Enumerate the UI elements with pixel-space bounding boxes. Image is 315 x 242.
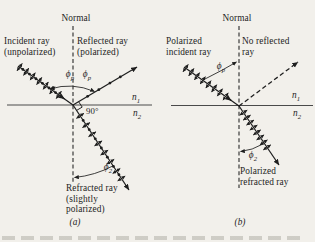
angle-label-phi-2-a: ϕ2 (104, 162, 112, 176)
angle-label-phi-p-reflected-a: ϕp (83, 69, 91, 83)
angle-label-phi-p-incident-a: ϕp (66, 69, 74, 83)
reflected-ray-label-a: Reflected ray (polarized) (77, 36, 128, 57)
right-angle-label-a: 90° (86, 106, 99, 117)
panel-caption-a: (a) (69, 217, 80, 228)
no-reflected-ray-label-b: No reflected ray (242, 36, 289, 57)
refracted-ray-a (73, 105, 129, 190)
polarized-incident-ray-label-b: Polarized incident ray (166, 36, 211, 57)
normal-label-a: Normal (62, 13, 91, 24)
angle-label-phi-2-b: ϕ2 (249, 150, 257, 164)
angle-label-phi-p-b: ϕp (217, 61, 225, 75)
refracted-ray-label-a: Refracted ray (slightly polarized) (66, 183, 118, 215)
panel-caption-b: (b) (234, 217, 245, 228)
no-reflected-ray-b (239, 62, 298, 106)
normal-label-b: Normal (223, 13, 252, 24)
incident-ray-label-a: Incident ray (unpolarized) (4, 36, 55, 57)
n1-label-a: n1 (132, 92, 140, 106)
n2-label-b: n2 (293, 108, 301, 122)
incident-ray-b (183, 64, 239, 106)
refracted-ray-b (239, 106, 279, 165)
n1-label-b: n1 (292, 90, 300, 104)
polarized-refracted-ray-label-b: Polarized refracted ray (240, 166, 289, 187)
n2-label-a: n2 (133, 108, 141, 122)
brewster-angle-figure: Normal Incident ray (unpolarized) Reflec… (0, 0, 315, 242)
incident-ray-a (17, 63, 73, 105)
cropped-caption-remnant (2, 236, 300, 240)
angle-arc-phi-p-a (50, 86, 95, 91)
